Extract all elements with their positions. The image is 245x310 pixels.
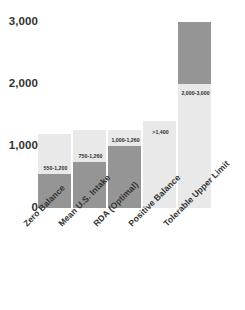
bar-value-label: 1,000-1,260	[109, 138, 142, 143]
y-axis-tick-2000: 2,000	[0, 78, 38, 90]
bar-value-label: 750-1,260	[74, 154, 107, 159]
bar-value-label: >1,400	[144, 130, 177, 135]
bar-value-label: 550-1,200	[39, 166, 72, 171]
y-axis-tick-1000: 1,000	[0, 140, 38, 152]
bar-value-label: 2,000-3,000	[179, 91, 212, 96]
bar-chart: 3,000 2,000 1,000 0 550-1,200 750-1,260	[0, 0, 245, 310]
bar-segment-dark	[178, 22, 211, 84]
y-axis-tick-3000: 3,000	[0, 16, 38, 28]
